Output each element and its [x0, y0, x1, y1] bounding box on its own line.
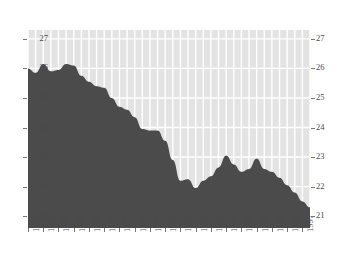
y-axis-tick-mark-left-24: [23, 128, 27, 129]
x-axis-tick-label-1983: 1983: [200, 215, 209, 232]
x-axis-tick-label-1981: 1981: [184, 215, 193, 232]
x-axis-tick-label-1975: 1975: [139, 215, 148, 232]
y-axis-tick-label-right-26: 26: [316, 63, 325, 72]
y-axis-tick-mark-right-27: [311, 39, 315, 40]
x-axis-tick-mark-1991: [257, 228, 258, 232]
x-axis-tick-label-1995: 1995: [291, 215, 300, 232]
x-axis-tick-mark-1983: [196, 228, 197, 232]
x-axis-tick-mark-1993: [272, 228, 273, 232]
x-axis-tick-mark-1975: [135, 228, 136, 232]
y-axis-tick-label-right-27: 27: [316, 34, 325, 43]
y-axis-tick-label-right-21: 21: [316, 211, 325, 220]
y-axis-tick-mark-left-25: [23, 98, 27, 99]
x-axis-tick-mark-1997: [302, 228, 303, 232]
x-axis-tick-label-1965: 1965: [62, 215, 71, 232]
y-axis-tick-label-left-23: 23: [40, 152, 49, 161]
y-axis-tick-label-left-25: 25: [40, 93, 49, 102]
y-axis-tick-mark-left-22: [23, 187, 27, 188]
y-axis-tick-mark-right-26: [311, 68, 315, 69]
y-axis-tick-label-left-24: 24: [40, 123, 49, 132]
area-series-layer: [28, 30, 310, 228]
x-axis-tick-mark-1987: [226, 228, 227, 232]
x-axis-tick-label-1973: 1973: [123, 215, 132, 232]
y-axis-tick-mark-right-25: [311, 98, 315, 99]
x-axis-tick-label-1985: 1985: [215, 215, 224, 232]
x-axis-tick-mark-1973: [119, 228, 120, 232]
x-axis-tick-label-1987: 1987: [230, 215, 239, 232]
x-axis-tick-label-1971: 1971: [108, 215, 117, 232]
y-axis-tick-label-right-22: 22: [316, 182, 325, 191]
y-axis-tick-label-right-23: 23: [316, 152, 325, 161]
y-axis-tick-label-left-27: 27: [40, 34, 49, 43]
x-axis-tick-mark-1989: [241, 228, 242, 232]
x-axis-tick-mark-1971: [104, 228, 105, 232]
chart-figure: 2121222223232424252526262727196119631965…: [0, 0, 342, 268]
x-axis-tick-mark-1963: [43, 228, 44, 232]
x-axis-tick-mark-1979: [165, 228, 166, 232]
x-axis-tick-label-1967: 1967: [78, 215, 87, 232]
x-axis-tick-label-1977: 1977: [154, 215, 163, 232]
x-axis-tick-mark-1967: [74, 228, 75, 232]
x-axis-tick-label-1989: 1989: [245, 215, 254, 232]
y-axis-tick-mark-right-23: [311, 157, 315, 158]
plot-area: [28, 30, 310, 228]
y-axis-tick-mark-left-27: [23, 39, 27, 40]
x-axis-tick-label-1993: 1993: [276, 215, 285, 232]
x-axis-tick-mark-1985: [211, 228, 212, 232]
x-axis-tick-mark-1969: [89, 228, 90, 232]
x-axis-tick-mark-1977: [150, 228, 151, 232]
x-axis-tick-label-1979: 1979: [169, 215, 178, 232]
x-axis-tick-mark-1961: [28, 228, 29, 232]
y-axis-tick-label-left-22: 22: [40, 182, 49, 191]
x-axis-tick-mark-1995: [287, 228, 288, 232]
x-axis-tick-label-1991: 1991: [261, 215, 270, 232]
x-axis-tick-mark-1965: [58, 228, 59, 232]
y-axis-tick-mark-left-26: [23, 68, 27, 69]
x-axis-tick-mark-1981: [180, 228, 181, 232]
y-axis-tick-label-right-25: 25: [316, 93, 325, 102]
x-axis-tick-label-1961: 1961: [32, 215, 41, 232]
y-axis-tick-mark-right-24: [311, 128, 315, 129]
y-axis-tick-label-left-26: 26: [40, 63, 49, 72]
x-axis-tick-label-1969: 1969: [93, 215, 102, 232]
x-axis-tick-label-1997: 1997: [306, 215, 315, 232]
y-axis-tick-label-right-24: 24: [316, 123, 325, 132]
y-axis-tick-mark-right-22: [311, 187, 315, 188]
y-axis-tick-mark-left-21: [23, 216, 27, 217]
y-axis-tick-mark-left-23: [23, 157, 27, 158]
x-axis-tick-label-1963: 1963: [47, 215, 56, 232]
